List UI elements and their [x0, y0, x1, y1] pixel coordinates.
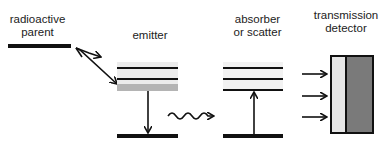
absorber-levels — [223, 62, 283, 136]
transmission-arrows-icon — [302, 74, 327, 117]
decay-arrows-icon — [76, 48, 117, 84]
diagram-graphics — [0, 0, 388, 147]
gamma-ray-icon — [168, 113, 214, 119]
detector-icon — [331, 56, 373, 133]
emitter-levels — [117, 62, 178, 136]
mossbauer-diagram: radioactive parent emitter absorber or s… — [0, 0, 388, 147]
